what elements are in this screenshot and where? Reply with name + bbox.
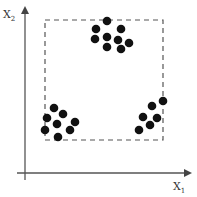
data-point [71,118,80,127]
data-point [148,102,157,111]
y-axis-label: X2 [3,8,15,23]
data-point [103,33,112,42]
data-point [103,43,112,52]
data-point [50,104,59,113]
data-point [59,110,68,119]
data-point [43,114,52,123]
data-point [66,126,75,135]
data-point [139,113,148,122]
data-point [117,45,126,54]
top-cluster [91,17,134,54]
bottom-left-cluster [41,104,80,142]
clusters-group [41,17,168,142]
data-point [153,114,162,123]
data-point [146,121,155,130]
data-point [159,97,168,106]
data-point [135,126,144,135]
data-point [53,120,62,129]
data-point [125,39,134,48]
cluster-diagram: X2 X1 [0,0,197,197]
data-point [41,126,50,135]
x-axis-label: X1 [173,180,185,195]
data-point [117,25,126,34]
data-point [92,25,101,34]
data-point [103,17,112,26]
data-point [91,35,100,44]
data-point [114,36,123,45]
data-point [54,133,63,142]
